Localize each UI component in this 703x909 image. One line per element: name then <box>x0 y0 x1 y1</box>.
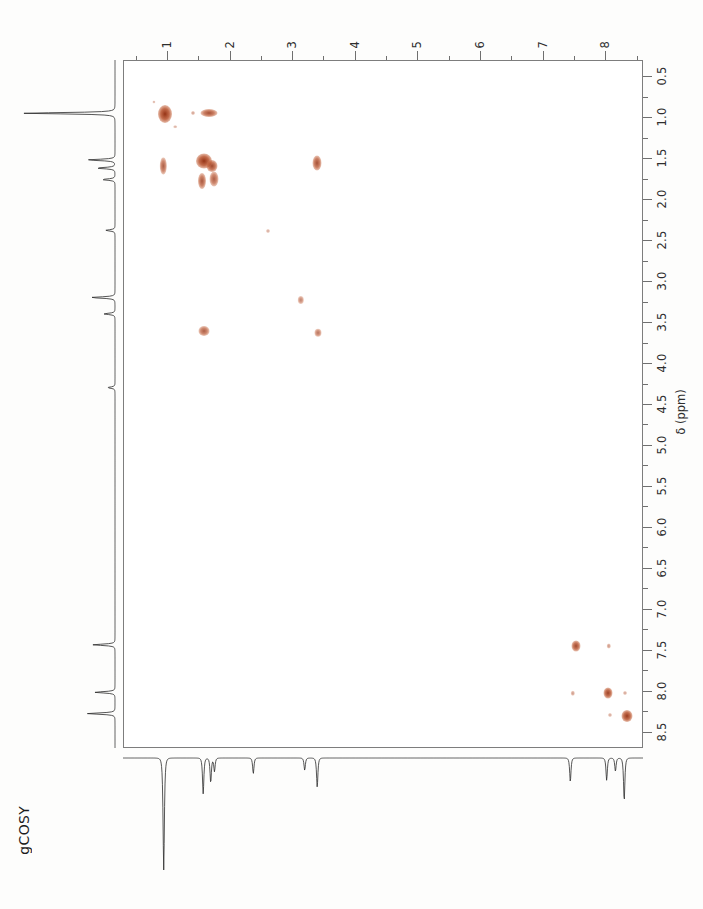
diagonal-peak <box>603 688 612 699</box>
f1-tick-label: 3.0 <box>655 272 669 291</box>
f1-minor-tick <box>643 261 648 262</box>
noise-spot <box>174 125 178 129</box>
cross-peak-layer <box>124 61 642 747</box>
diagonal-peak <box>206 160 217 172</box>
f2-major-tick <box>605 51 606 60</box>
cross-peak <box>191 111 195 115</box>
f1-major-tick <box>643 363 652 364</box>
f1-tick-label: 6.0 <box>655 517 669 536</box>
f2-major-tick <box>355 51 356 60</box>
cross-peak <box>570 691 574 695</box>
f2-major-tick <box>480 51 481 60</box>
f1-tick-label: 1.5 <box>655 149 669 168</box>
f1-minor-tick <box>643 384 648 385</box>
f2-tick-label: 3 <box>285 41 299 49</box>
f1-minor-tick <box>643 588 648 589</box>
f1-tick-label: 8.5 <box>655 722 669 741</box>
f1-major-tick <box>643 527 652 528</box>
f1-tick-label: 1.0 <box>655 108 669 127</box>
cross-peak <box>608 713 612 717</box>
cross-peak <box>607 643 611 648</box>
axis-unit-label: δ (ppm) <box>674 389 688 434</box>
f2-tick-label: 4 <box>348 41 362 49</box>
f2-major-tick <box>230 51 231 60</box>
f2-tick-label: 7 <box>536 41 550 49</box>
f1-major-tick <box>643 691 652 692</box>
f1-minor-tick <box>643 97 648 98</box>
f1-projection-path <box>24 60 115 748</box>
diagonal-peak <box>210 171 219 186</box>
f1-minor-tick <box>643 465 648 466</box>
f1-tick-label: 8.0 <box>655 681 669 700</box>
diagonal-peak <box>297 296 303 304</box>
f2-projection-trace <box>123 752 643 877</box>
f1-major-tick <box>643 240 652 241</box>
cross-peak <box>198 326 209 336</box>
f1-major-tick <box>643 486 652 487</box>
f1-major-tick <box>643 404 652 405</box>
f2-tick-label: 1 <box>160 41 174 49</box>
f2-major-tick <box>167 51 168 60</box>
f2-major-tick <box>417 51 418 60</box>
f1-tick-label: 7.5 <box>655 640 669 659</box>
diagonal-peak <box>158 105 172 123</box>
f1-minor-tick <box>643 547 648 548</box>
f1-tick-label: 4.0 <box>655 354 669 373</box>
f1-axis-right: δ (ppm) 0.51.01.52.02.53.03.54.04.55.05.… <box>643 60 703 748</box>
f1-major-tick <box>643 650 652 651</box>
f1-major-tick <box>643 609 652 610</box>
f1-tick-label: 7.0 <box>655 599 669 618</box>
f1-minor-tick <box>643 343 648 344</box>
f1-minor-tick <box>643 670 648 671</box>
f1-tick-label: 3.5 <box>655 313 669 332</box>
f2-tick-label: 8 <box>598 41 612 49</box>
f1-major-tick <box>643 445 652 446</box>
f1-tick-label: 4.5 <box>655 395 669 414</box>
f2-projection-path <box>123 758 643 870</box>
cross-peak <box>160 157 166 174</box>
cross-peak <box>623 691 627 695</box>
f2-tick-label: 5 <box>410 41 424 49</box>
diagonal-peak <box>622 710 633 722</box>
experiment-type-label: gCOSY <box>16 806 32 855</box>
f1-major-tick <box>643 281 652 282</box>
cross-peak <box>266 229 270 233</box>
f1-minor-tick <box>643 179 648 180</box>
cross-peak <box>200 109 217 117</box>
f1-minor-tick <box>643 711 648 712</box>
diagonal-peak <box>572 640 581 651</box>
f1-major-tick <box>643 568 652 569</box>
f1-minor-tick <box>643 220 648 221</box>
f2-tick-label: 6 <box>473 41 487 49</box>
noise-spot <box>152 100 155 103</box>
cross-peak <box>315 329 322 337</box>
f1-tick-label: 2.0 <box>655 190 669 209</box>
f2-tick-label: 2 <box>223 41 237 49</box>
f1-minor-tick <box>643 138 648 139</box>
f1-major-tick <box>643 199 652 200</box>
cross-peak <box>198 173 206 189</box>
f1-major-tick <box>643 732 652 733</box>
f1-minor-tick <box>643 506 648 507</box>
f1-tick-label: 5.0 <box>655 435 669 454</box>
f1-projection-trace <box>18 60 118 748</box>
spectrum-plot-area[interactable] <box>123 60 643 748</box>
f1-tick-label: 0.5 <box>655 67 669 86</box>
f1-major-tick <box>643 76 652 77</box>
f1-minor-tick <box>643 629 648 630</box>
f1-minor-tick <box>643 424 648 425</box>
f2-axis-top: 12345678 <box>123 46 643 60</box>
f1-major-tick <box>643 322 652 323</box>
f1-tick-label: 2.5 <box>655 231 669 250</box>
f1-minor-tick <box>643 302 648 303</box>
cross-peak <box>312 156 321 171</box>
f1-tick-label: 6.5 <box>655 558 669 577</box>
f1-tick-label: 5.5 <box>655 476 669 495</box>
f2-major-tick <box>543 51 544 60</box>
f1-major-tick <box>643 158 652 159</box>
f1-major-tick <box>643 117 652 118</box>
f2-major-tick <box>292 51 293 60</box>
